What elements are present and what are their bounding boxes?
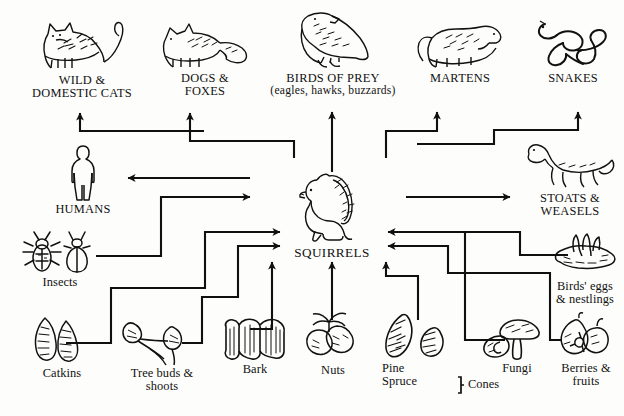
node-berries-fruits: Berries & fruits (548, 310, 624, 388)
bark-icon (218, 313, 292, 363)
cones-bracket-icon (458, 377, 464, 393)
node-birds-eggs: Birds' eggs & nestlings (545, 232, 624, 306)
node-label: Birds' eggs & nestlings (545, 280, 624, 306)
node-insects: Insects (14, 224, 106, 289)
fox-icon (158, 20, 252, 72)
node-birds-of-prey: BIRDS OF PREY (eagles, hawks, buzzards) (258, 10, 408, 97)
node-label: MARTENS (405, 72, 515, 85)
node-martens: MARTENS (405, 20, 515, 85)
node-label: Tree buds & shoots (110, 367, 214, 393)
node-nuts: Nuts (296, 310, 370, 377)
node-humans: HUMANS (28, 143, 138, 216)
node-label: SNAKES (523, 72, 623, 85)
arrow-squirrels-to-dogs (190, 113, 294, 158)
bird-of-prey-icon (290, 10, 376, 72)
node-label: DOGS & FOXES (150, 72, 260, 98)
node-fungi: Fungi (478, 312, 556, 375)
node-label: WILD & DOMESTIC CATS (12, 74, 152, 100)
birds-eggs-icon (550, 232, 620, 280)
node-label: Nuts (296, 364, 370, 377)
tree-buds-icon (116, 313, 208, 367)
stoat-icon (523, 140, 617, 192)
node-label: Catkins (16, 367, 108, 380)
node-squirrels: SQUIRRELS (282, 168, 382, 260)
insects-icon (20, 224, 100, 276)
arrow-squirrels-to-martens (386, 112, 437, 158)
node-tree-buds: Tree buds & shoots (110, 313, 214, 393)
catkins-icon (25, 313, 99, 367)
human-icon (63, 143, 103, 203)
node-label: Fungi (478, 362, 556, 375)
node-stoats-weasels: STOATS & WEASELS (516, 140, 624, 218)
node-label: STOATS & WEASELS (516, 192, 624, 218)
node-label: HUMANS (28, 203, 138, 216)
node-cones: Pine Spruce (378, 310, 458, 388)
node-label: Insects (14, 276, 106, 289)
fungi-icon (480, 312, 554, 362)
dummy2 (465, 232, 548, 267)
node-bark: Bark (213, 313, 297, 376)
node-catkins: Catkins (16, 313, 108, 380)
node-wild-domestic-cats: WILD & DOMESTIC CATS (12, 16, 152, 100)
node-snakes: SNAKES (523, 18, 623, 85)
cat-icon (34, 16, 130, 74)
cones-icon (380, 310, 456, 362)
snake-icon (531, 18, 615, 72)
squirrel-icon (293, 168, 371, 246)
arrow-squirrels-to-cats (80, 113, 204, 131)
node-label: Bark (213, 363, 297, 376)
marten-icon (414, 20, 506, 72)
node-label: Berries & fruits (548, 362, 624, 388)
cones-bracket-label: Cones (468, 378, 499, 391)
node-dogs-foxes: DOGS & FOXES (150, 20, 260, 98)
node-sublabel: (eagles, hawks, buzzards) (258, 85, 408, 97)
node-label: SQUIRRELS (282, 246, 382, 260)
nuts-icon (299, 310, 367, 364)
berries-icon (551, 310, 621, 362)
node-label: Pine Spruce (382, 362, 458, 388)
food-web-diagram: WILD & DOMESTIC CATS DOGS & FOXES (0, 0, 624, 416)
